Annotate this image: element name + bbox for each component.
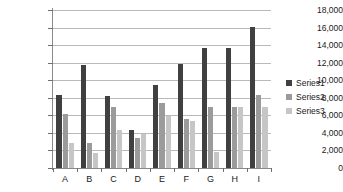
x-tick-mark	[174, 168, 175, 172]
x-tick-mark	[198, 168, 199, 172]
x-tick-label-I: I	[247, 175, 271, 184]
x-tick-label-B: B	[77, 175, 101, 184]
bar-series3-G	[214, 152, 219, 168]
y-tick-label: 16,000	[299, 24, 343, 33]
bar-series2-A	[63, 114, 68, 168]
x-tick-label-G: G	[198, 175, 222, 184]
x-axis-line	[52, 168, 272, 169]
legend-label-series2: Series2	[296, 93, 325, 102]
x-tick-label-H: H	[223, 175, 247, 184]
y-tick-label: 4,000	[299, 129, 343, 138]
bar-series2-F	[184, 119, 189, 168]
gridline	[53, 63, 271, 64]
gridline	[53, 10, 271, 11]
bar-series2-B	[87, 143, 92, 168]
y-tick-label: 14,000	[299, 41, 343, 50]
legend: Series1 Series2 Series3	[286, 76, 342, 118]
x-tick-mark	[150, 168, 151, 172]
bar-series1-D	[129, 130, 134, 168]
x-tick-mark	[77, 168, 78, 172]
bar-series1-H	[226, 48, 231, 168]
bar-series1-I	[250, 27, 255, 168]
gridline	[53, 45, 271, 46]
bar-series2-C	[111, 107, 116, 168]
x-tick-mark	[223, 168, 224, 172]
bar-series2-E	[159, 103, 164, 168]
x-tick-label-C: C	[101, 175, 125, 184]
bar-series3-C	[117, 130, 122, 168]
bar-series2-I	[256, 95, 261, 168]
y-tick-label: 18,000	[299, 6, 343, 15]
plot-area	[53, 10, 271, 168]
x-tick-label-E: E	[150, 175, 174, 184]
bar-series3-I	[262, 107, 267, 168]
bar-series1-E	[153, 85, 158, 168]
bar-series1-G	[202, 48, 207, 168]
bar-series2-G	[208, 107, 213, 168]
bar-series3-E	[166, 116, 171, 168]
bar-series1-A	[56, 95, 61, 168]
legend-label-series3: Series3	[296, 107, 325, 116]
legend-swatch-series1	[286, 80, 292, 86]
x-tick-label-D: D	[126, 175, 150, 184]
bar-series3-H	[238, 107, 243, 168]
y-tick-label: 2,000	[299, 146, 343, 155]
legend-label-series1: Series1	[296, 79, 325, 88]
x-tick-label-F: F	[174, 175, 198, 184]
legend-item-series3: Series3	[286, 104, 342, 118]
x-tick-mark	[271, 168, 272, 172]
bar-series2-H	[232, 107, 237, 168]
gridline	[53, 28, 271, 29]
y-tick-label: 12,000	[299, 59, 343, 68]
bar-series1-F	[178, 64, 183, 168]
bar-series3-F	[190, 121, 195, 168]
bar-series3-A	[69, 143, 74, 168]
x-tick-mark	[247, 168, 248, 172]
y-tick-label: 0	[299, 164, 343, 173]
x-tick-mark	[53, 168, 54, 172]
x-tick-mark	[101, 168, 102, 172]
x-tick-label-A: A	[53, 175, 77, 184]
legend-swatch-series3	[286, 108, 292, 114]
bar-series1-C	[105, 96, 110, 168]
bar-chart: 02,0004,0006,0008,00010,00012,00014,0001…	[0, 0, 343, 192]
x-tick-mark	[126, 168, 127, 172]
bar-series3-B	[93, 153, 98, 168]
legend-swatch-series2	[286, 94, 292, 100]
bar-series3-D	[141, 134, 146, 168]
legend-item-series2: Series2	[286, 90, 342, 104]
legend-item-series1: Series1	[286, 76, 342, 90]
bar-series1-B	[81, 65, 86, 168]
bar-series2-D	[135, 138, 140, 168]
